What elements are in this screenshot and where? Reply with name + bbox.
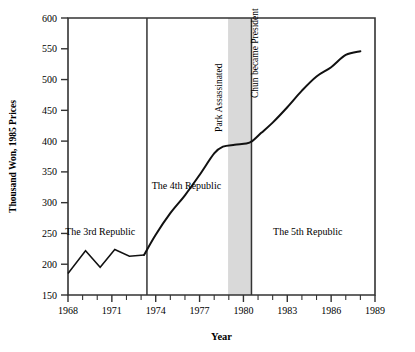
x-tick-label: 1989 (365, 305, 385, 316)
region-label-1: The 3rd Republic (65, 226, 136, 237)
park-assassination-band (228, 18, 251, 295)
y-tick-label: 600 (42, 13, 57, 24)
x-tick-label: 1971 (102, 305, 122, 316)
y-tick-label: 250 (42, 228, 57, 239)
x-tick-label: 1977 (190, 305, 210, 316)
y-tick-label: 450 (42, 105, 57, 116)
x-tick-label: 1983 (277, 305, 297, 316)
y-tick-label: 150 (42, 290, 57, 301)
y-axis-title-text: Thousand Won, 1985 Prices (8, 100, 18, 213)
y-tick-label: 500 (42, 74, 57, 85)
y-tick-label: 300 (42, 197, 57, 208)
event-label-1: Park Assassinated (214, 63, 224, 132)
region-label-3: The 5th Republic (273, 226, 343, 237)
chart-container: 19681971197419771980198319861989 1502002… (0, 0, 415, 352)
region-label-2: The 4th Republic (152, 180, 222, 191)
y-tick-label: 200 (42, 259, 57, 270)
y-axis-title: Thousand Won, 1985 Prices (8, 100, 18, 213)
x-tick-label: 1980 (233, 305, 253, 316)
event-label-2: Chun became President (250, 8, 260, 98)
shaded-band (228, 18, 251, 295)
y-tick-label: 400 (42, 136, 57, 147)
line-chart: 19681971197419771980198319861989 1502002… (0, 0, 415, 352)
x-axis-title-text: Year (211, 331, 232, 342)
y-tick-label: 350 (42, 166, 57, 177)
x-tick-label: 1968 (58, 305, 78, 316)
x-tick-label: 1974 (146, 305, 166, 316)
x-tick-label: 1986 (321, 305, 341, 316)
x-axis-title: Year (211, 331, 232, 342)
y-tick-label: 550 (42, 43, 57, 54)
